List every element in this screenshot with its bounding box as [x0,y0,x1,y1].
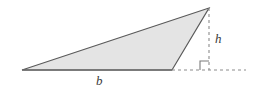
triangle-shape [22,8,209,70]
right-angle-marker-icon [200,61,209,70]
height-label: h [215,32,222,45]
geometry-figure: b h [0,0,253,91]
base-label: b [96,74,103,87]
